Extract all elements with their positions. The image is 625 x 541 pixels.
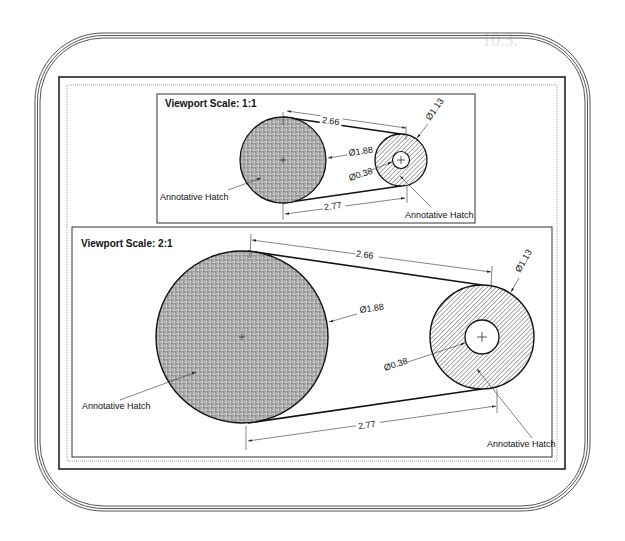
hatch-label-small: Annotative Hatch bbox=[405, 210, 474, 220]
drawing-canvas: Viewport Scale: 1:1 2.66 2.77 Ø1.88 Ø1.1… bbox=[0, 0, 625, 541]
viewport-1-1[interactable]: Viewport Scale: 1:1 2.66 2.77 Ø1.88 Ø1.1… bbox=[157, 94, 475, 223]
hatch-label-large: Annotative Hatch bbox=[82, 401, 151, 411]
hatch-label-small: Annotative Hatch bbox=[487, 439, 556, 449]
viewport-2-1[interactable]: Viewport Scale: 2:1 2.66 2.77 Ø1.88 Ø1.1… bbox=[72, 227, 556, 457]
hatch-label-large: Annotative Hatch bbox=[160, 192, 229, 202]
viewport-title: Viewport Scale: 2:1 bbox=[81, 238, 173, 249]
viewport-title: Viewport Scale: 1:1 bbox=[165, 98, 257, 109]
